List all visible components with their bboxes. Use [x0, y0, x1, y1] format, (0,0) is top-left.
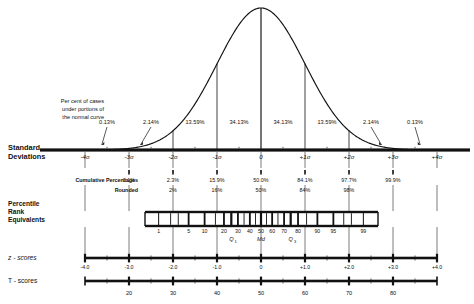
standard-deviations-label: Standard: [8, 143, 41, 152]
quartile-marker-tick: [230, 212, 232, 226]
percentile-tick: [204, 212, 206, 226]
band-percentage-label: 13.59%: [318, 119, 337, 125]
z-score-tick: [172, 254, 174, 263]
percentile-tick-label: 20: [221, 228, 227, 234]
cumulative-percentage-value: 15.9%: [209, 177, 224, 183]
z-score-tick-label: 0: [260, 264, 263, 270]
percentile-minor-tick: [178, 213, 179, 225]
percentile-minor-tick: [278, 213, 279, 225]
t-score-tick-label: 80: [390, 290, 396, 296]
percentile-rank-label: Rank: [8, 208, 24, 215]
percentile-tick-label: 1: [157, 228, 160, 234]
chart-canvas: 0.13%2.14%13.59%34.13%34.13%13.59%2.14%0…: [0, 0, 474, 304]
quartile-marker-label: Md: [257, 236, 266, 242]
percentile-tick: [332, 212, 334, 226]
cumulative-tick: [348, 170, 350, 175]
quartile-marker-label: Q: [229, 236, 234, 242]
percentile-tick-label: 80: [295, 228, 301, 234]
standard-deviations-label: Deviations: [8, 152, 45, 161]
z-score-tick: [304, 254, 306, 263]
band-percentage-label: 2.14%: [143, 119, 159, 125]
quartile-marker-subscript: 1: [235, 239, 238, 244]
percent-of-cases-caption: Per cent of cases: [61, 98, 104, 104]
z-score-tick-label: +4.0: [432, 264, 442, 270]
cumulative-tick: [216, 170, 218, 175]
percent-of-cases-caption: the normal curve: [62, 114, 104, 120]
percentile-tick-label: 60: [269, 228, 275, 234]
percentile-tick: [297, 212, 299, 226]
z-score-tick: [348, 254, 350, 263]
cumulative-percentage-value: 84.1%: [297, 177, 312, 183]
t-score-tick-label: 20: [126, 290, 132, 296]
leader-line-left-inner: [140, 127, 151, 145]
percentile-minor-tick: [343, 213, 344, 225]
leader-line-right-outer: [415, 127, 420, 145]
t-score-tick: [216, 277, 218, 286]
t-score-tick-label: 30: [170, 290, 176, 296]
quartile-marker-label: Q: [288, 236, 293, 242]
percentile-tick: [283, 212, 285, 226]
percentile-tick: [188, 212, 190, 226]
percentile-minor-tick: [306, 213, 307, 225]
percentile-tick: [271, 212, 273, 226]
band-percentage-label: 34.13%: [274, 119, 293, 125]
percent-of-cases-caption: under portions of: [62, 106, 104, 112]
z-score-tick-label: -4.0: [81, 264, 90, 270]
percentile-tick-label: 30: [235, 228, 241, 234]
percentile-tick-label: 40: [247, 228, 253, 234]
percentile-tick: [237, 212, 239, 226]
z-score-tick: [216, 254, 218, 263]
percentile-minor-tick: [266, 213, 267, 225]
percentile-tick-label: 90: [314, 228, 320, 234]
cumulative-tick: [260, 170, 262, 175]
percentile-tick: [363, 212, 364, 226]
t-score-tick: [260, 277, 262, 286]
percentile-rank-label: Equivalents: [8, 216, 45, 224]
t-scores-label: T - scores: [8, 277, 38, 284]
cumulative-percentage-value: 50.0%: [253, 177, 268, 183]
quartile-marker-subscript: 3: [294, 239, 297, 244]
cumulative-percentage-value: 0.1%: [123, 177, 135, 183]
z-score-tick-label: +2.0: [344, 264, 354, 270]
leader-line-right-inner: [371, 127, 382, 145]
z-score-tick-label: +3.0: [388, 264, 398, 270]
cumulative-percentage-value: 2.3%: [167, 177, 179, 183]
t-score-tick-label: 70: [346, 290, 352, 296]
z-scores-label: z - scores: [7, 254, 37, 261]
z-score-tick: [128, 254, 130, 263]
t-score-tick: [348, 277, 350, 286]
z-score-tick: [392, 254, 394, 263]
percentile-tick-label: 99: [360, 228, 366, 234]
cumulative-tick: [392, 170, 394, 175]
percentile-tick: [223, 212, 225, 226]
t-score-tick: [304, 277, 306, 286]
z-score-tick-label: -2.0: [169, 264, 178, 270]
percentile-minor-tick: [255, 213, 256, 225]
percentile-tick-label: 5: [187, 228, 190, 234]
band-percentage-label: 0.13%: [407, 119, 423, 125]
t-score-tick: [128, 277, 130, 286]
quartile-marker-tick: [290, 212, 292, 226]
quartile-marker-tick: [260, 212, 262, 226]
z-score-tick: [84, 254, 86, 263]
z-score-tick-label: -1.0: [213, 264, 222, 270]
percentile-rank-label: Percentile: [8, 200, 40, 207]
cumulative-percentage-value: 97.7%: [341, 177, 356, 183]
percentile-tick: [316, 212, 318, 226]
z-score-tick-label: -3.0: [125, 264, 134, 270]
rounded-label: Rounded: [115, 187, 138, 193]
t-score-tick-label: 60: [302, 290, 308, 296]
t-score-tick: [392, 277, 394, 286]
cumulative-tick: [128, 170, 130, 175]
cumulative-tick: [172, 170, 174, 175]
percentile-minor-tick: [170, 213, 171, 225]
normal-curve-figure: 0.13%2.14%13.59%34.13%34.13%13.59%2.14%0…: [0, 0, 474, 304]
percentile-minor-tick: [351, 213, 352, 225]
standard-deviation-axis: [40, 148, 470, 151]
leader-line-left-outer: [102, 127, 107, 145]
z-score-tick-label: +1.0: [300, 264, 310, 270]
band-percentage-label: 34.13%: [230, 119, 249, 125]
percentile-tick: [249, 212, 251, 226]
percentile-tick: [158, 212, 159, 226]
band-percentage-label: 2.14%: [363, 119, 379, 125]
